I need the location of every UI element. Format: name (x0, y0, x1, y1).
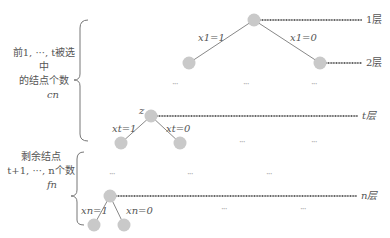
annotation-remaining-line2: t+1, ···, n个数 (4, 164, 78, 178)
node-root (248, 14, 261, 27)
node-xt-0 (174, 137, 187, 150)
ellipsis: ··· (311, 80, 317, 89)
level-lines (110, 20, 362, 196)
annotation-selected: 前1, ···, t被选中 的结点个数 cn (8, 46, 80, 102)
node-z (145, 110, 158, 123)
ellipsis: ··· (221, 205, 227, 214)
annotation-selected-line1: 前1, ···, t被选中 (8, 46, 80, 74)
node-xt-1 (115, 137, 128, 150)
ellipsis: ··· (300, 205, 306, 214)
ellipsis: ··· (109, 170, 115, 179)
edge-label-xn-1: xn=1 (81, 206, 108, 216)
ellipsis: ··· (243, 80, 249, 89)
edge-label-x1-0: x1=0 (290, 33, 317, 43)
tree-diagram (0, 0, 390, 238)
ellipsis: ··· (311, 138, 317, 147)
level-label-n: n层 (361, 191, 377, 201)
annotation-fn: fn (26, 178, 78, 192)
node-n (104, 190, 117, 203)
annotation-selected-line2: 的结点个数 (8, 74, 80, 88)
annotation-remaining: 剩余结点 t+1, ···, n个数 fn (4, 150, 78, 192)
level-label-1: 1层 (366, 15, 382, 25)
ellipsis: ··· (239, 138, 245, 147)
level-label-t: t层 (362, 111, 376, 121)
edge-label-xt-0: xt=0 (166, 124, 190, 134)
ellipsis: ··· (187, 170, 193, 179)
edge-label-xn-0: xn=0 (126, 206, 153, 216)
level-label-2: 2层 (366, 58, 382, 68)
annotation-remaining-line1: 剩余结点 (4, 150, 78, 164)
node-xn-1 (88, 219, 101, 232)
edge-label-xt-1: xt=1 (112, 124, 136, 134)
ellipsis: ··· (172, 80, 178, 89)
node-xn-0 (118, 219, 131, 232)
ellipsis: ··· (266, 170, 272, 179)
edge-label-x1-1: x1=1 (198, 33, 225, 43)
annotation-cn: cn (26, 88, 80, 102)
node-x1-0 (314, 57, 327, 70)
node-label-z: z (139, 106, 144, 116)
node-x1-1 (183, 57, 196, 70)
